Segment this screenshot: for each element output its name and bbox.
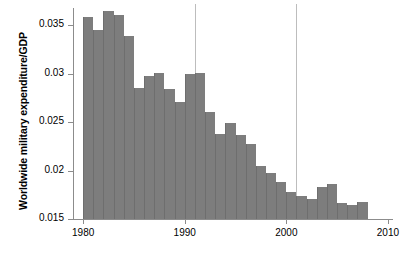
y-tick-label: 0.03 xyxy=(45,67,64,78)
reference-line-post-9-11 xyxy=(296,4,297,219)
bar xyxy=(307,199,317,219)
bar xyxy=(93,30,103,219)
bar xyxy=(296,196,306,219)
bar xyxy=(317,187,327,219)
x-tick xyxy=(388,219,389,224)
bar xyxy=(215,134,225,219)
y-axis-title: Worldwide military expenditure/GDP xyxy=(14,6,32,236)
chart-figure: Worldwide military expenditure/GDP 0.015… xyxy=(0,0,415,257)
bar xyxy=(347,205,357,219)
bar xyxy=(205,112,215,219)
bar xyxy=(225,123,235,219)
bar xyxy=(357,202,367,219)
y-tick: 0.015 xyxy=(68,219,73,220)
bar xyxy=(246,144,256,219)
bar xyxy=(256,166,266,219)
bar xyxy=(103,11,113,219)
y-tick-label: 0.015 xyxy=(39,212,64,223)
x-tick xyxy=(83,219,84,224)
bar xyxy=(164,89,174,219)
bar xyxy=(114,15,124,219)
y-tick: 0.025 xyxy=(68,122,73,123)
bar xyxy=(124,36,134,219)
y-tick: 0.02 xyxy=(68,171,73,172)
y-tick: 0.03 xyxy=(68,74,73,75)
bar xyxy=(185,74,195,219)
bar xyxy=(286,192,296,219)
bar xyxy=(144,76,154,219)
bar xyxy=(266,173,276,219)
bar xyxy=(327,184,337,219)
bar xyxy=(236,135,246,219)
y-tick: 0.035 xyxy=(68,25,73,26)
x-tick xyxy=(286,219,287,224)
y-tick-label: 0.035 xyxy=(39,18,64,29)
x-tick-label: 2000 xyxy=(275,227,297,238)
bar xyxy=(195,73,205,219)
plot-area: 0.0150.020.0250.030.035 1980199020002010 xyxy=(73,8,393,219)
x-tick-label: 1990 xyxy=(174,227,196,238)
bar xyxy=(83,17,93,219)
x-axis-line xyxy=(72,219,393,220)
bar xyxy=(134,88,144,219)
x-tick-label: 1980 xyxy=(72,227,94,238)
bar xyxy=(175,102,185,219)
x-tick xyxy=(185,219,186,224)
x-tick-label: 2010 xyxy=(377,227,399,238)
y-tick-label: 0.025 xyxy=(39,115,64,126)
bar xyxy=(154,73,164,219)
bar xyxy=(337,203,347,219)
bar xyxy=(276,182,286,219)
y-tick-label: 0.02 xyxy=(45,164,64,175)
y-axis-line xyxy=(73,8,74,219)
